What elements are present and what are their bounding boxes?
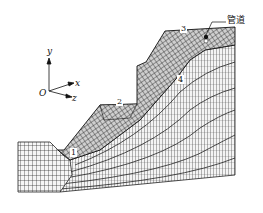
axes-triad xyxy=(47,58,74,98)
point-label-4: 4 xyxy=(177,75,184,84)
point-label-2: 2 xyxy=(116,97,123,106)
pipeline-label: 管道 xyxy=(227,16,245,25)
point-label-3: 3 xyxy=(180,24,187,33)
point-label-1: 1 xyxy=(70,148,77,157)
axis-label-y: y xyxy=(47,47,52,56)
axis-label-z: z xyxy=(72,94,77,103)
slope-mesh-figure xyxy=(0,0,263,213)
axis-label-x: x xyxy=(75,79,80,88)
axis-label-origin: O xyxy=(39,89,46,98)
